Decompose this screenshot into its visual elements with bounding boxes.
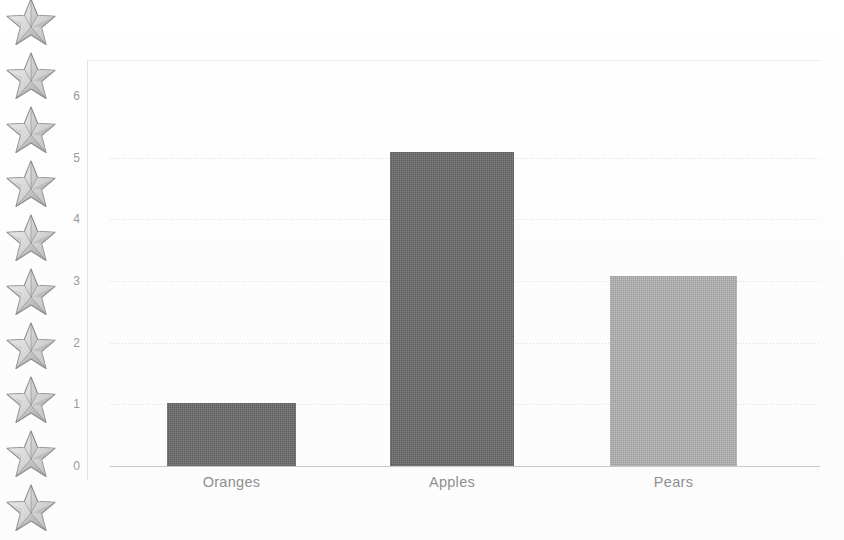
y-axis-tick-label: 2 [54, 337, 80, 349]
plot-top-border [87, 60, 820, 61]
bar-fill [610, 276, 737, 466]
y-axis-line [87, 60, 88, 480]
y-axis-tick-label: 5 [54, 152, 80, 164]
x-axis-baseline [110, 466, 820, 467]
bar-fill [390, 152, 514, 466]
bar-apples[interactable] [390, 152, 514, 466]
x-axis-label-oranges: Oranges [127, 474, 336, 491]
x-axis-label-pears: Pears [570, 474, 777, 491]
y-axis-tick-label: 3 [54, 275, 80, 287]
y-axis-tick-label: 6 [54, 90, 80, 102]
bar-pears[interactable] [610, 276, 737, 466]
y-axis-tick-label: 4 [54, 213, 80, 225]
bar-fill [167, 403, 296, 466]
screenshot-root: 0123456 OrangesApplesPears [0, 0, 844, 540]
y-axis-tick-label: 0 [54, 460, 80, 472]
y-axis-tick-label: 1 [54, 398, 80, 410]
x-axis-label-apples: Apples [350, 474, 554, 491]
bar-chart: 0123456 OrangesApplesPears [0, 0, 844, 540]
y-axis-tick-labels: 0123456 [50, 0, 80, 540]
bar-oranges[interactable] [167, 403, 296, 466]
